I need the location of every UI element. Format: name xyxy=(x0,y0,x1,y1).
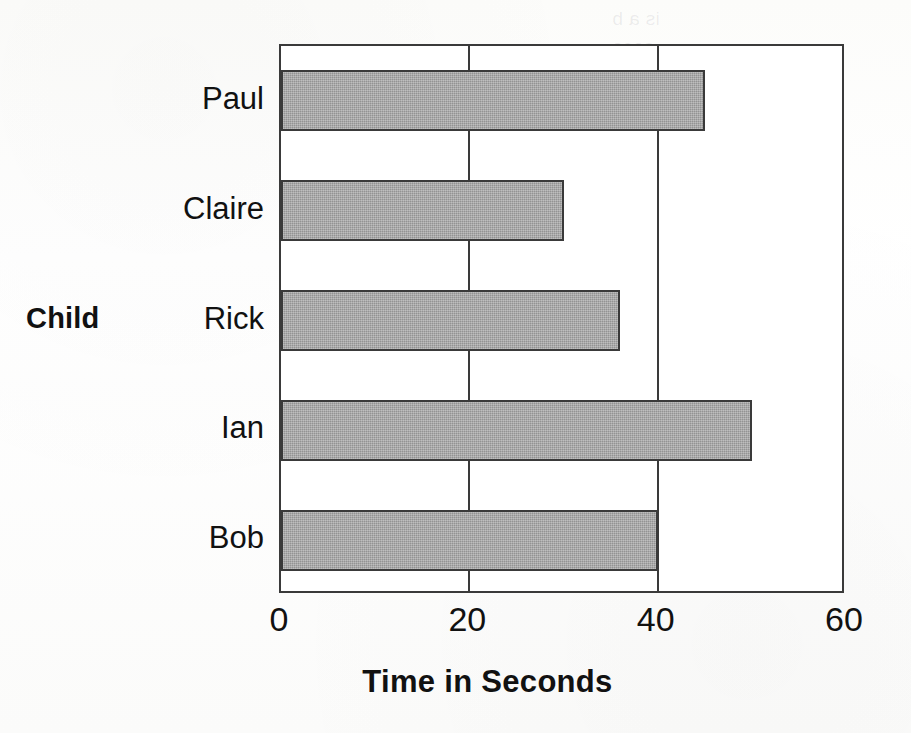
y-tick-label-bob: Bob xyxy=(0,520,264,556)
bar-row xyxy=(281,180,846,241)
x-tick-label-20: 20 xyxy=(448,600,486,639)
bar-rick xyxy=(281,290,620,351)
bar-claire xyxy=(281,180,564,241)
bar-bob xyxy=(281,510,658,571)
x-tick-label-60: 60 xyxy=(825,600,863,639)
bar-row xyxy=(281,400,846,461)
x-tick-label-0: 0 xyxy=(270,600,289,639)
y-tick-label-ian: Ian xyxy=(0,410,264,446)
x-tick-label-40: 40 xyxy=(637,600,675,639)
y-tick-label-claire: Claire xyxy=(0,191,264,227)
bar-row xyxy=(281,290,846,351)
y-tick-label-rick: Rick xyxy=(0,301,264,337)
plot-area xyxy=(279,44,844,593)
bar-row xyxy=(281,510,846,571)
y-tick-label-paul: Paul xyxy=(0,81,264,117)
x-axis-title-text: Time in Seconds xyxy=(362,664,612,700)
bar-paul xyxy=(281,70,705,131)
bar-chart-figure: Child PaulClaireRickIanBob 0204060 Time … xyxy=(0,0,911,733)
bar-ian xyxy=(281,400,752,461)
x-axis-title: Time in Seconds xyxy=(0,664,911,700)
bar-row xyxy=(281,70,846,131)
